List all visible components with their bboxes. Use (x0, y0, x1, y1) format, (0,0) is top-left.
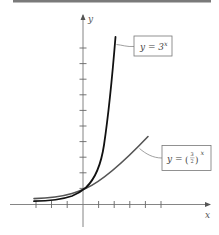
label-box-three-to-the-x: y = 3x (134, 36, 172, 56)
x-axis-label: x (205, 210, 210, 220)
label-three-to-the-x-exponent: x (164, 40, 168, 48)
label-box-three-halves-to-the-x: y = ( 3 2 ) x (162, 146, 211, 171)
label-frac-numerator: 3 (191, 151, 194, 157)
label-three-halves-prefix: y = (166, 154, 183, 164)
y-axis-label: y (87, 14, 94, 24)
label-paren-close: ) (195, 155, 199, 165)
svg-text:y = 3x: y = 3x (139, 40, 168, 52)
y-axis: y (80, 14, 95, 227)
leader-line-three-to-the-x (117, 45, 135, 47)
top-rule (13, 0, 211, 3)
curve-three-halves-to-the-x (34, 137, 148, 199)
leader-line-three-halves-to-the-x (140, 149, 163, 159)
label-frac-denominator: 2 (191, 158, 194, 164)
curve-three-to-the-x (34, 37, 116, 201)
x-axis: x (10, 201, 210, 220)
label-paren-open: ( (185, 155, 189, 165)
label-three-to-the-x-base: y = 3 (139, 42, 164, 52)
exponential-graph: x y y = 3x y = (0, 0, 219, 235)
label-three-halves-exponent: x (201, 149, 205, 157)
